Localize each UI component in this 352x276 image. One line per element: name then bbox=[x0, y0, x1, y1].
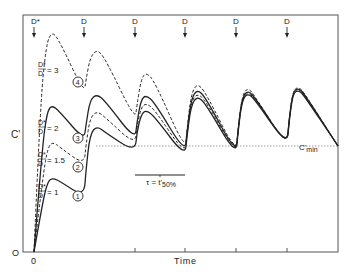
series-marker-number: 1 bbox=[76, 193, 80, 200]
dosing-chart: D*DDDDD D*D= 34D*D= 23D*D= 1.52D*D= 11 τ… bbox=[0, 0, 352, 276]
ratio-value: = 3 bbox=[47, 66, 59, 75]
dose-marker: D bbox=[81, 17, 87, 38]
y-origin-label: O bbox=[12, 248, 19, 258]
dose-arrow-icon bbox=[82, 33, 86, 38]
cmin-sub: min bbox=[306, 146, 317, 153]
tau-interval-annotation: τ = t'50% bbox=[135, 175, 185, 188]
dose-marker: D bbox=[284, 17, 290, 38]
chart-frame bbox=[23, 15, 338, 252]
plot-border bbox=[23, 15, 338, 252]
dose-arrow-icon bbox=[285, 33, 289, 38]
dose-marker: D bbox=[182, 17, 188, 38]
ratio-numerator: D* bbox=[38, 119, 46, 126]
ratio-denominator: D bbox=[38, 70, 43, 77]
tau-label: τ = t'50% bbox=[146, 178, 176, 188]
ratio-value: = 2 bbox=[47, 124, 59, 133]
dose-marker: D bbox=[132, 17, 138, 38]
ratio-denominator: D bbox=[38, 128, 43, 135]
x-axis-label: Time bbox=[174, 256, 197, 266]
dose-arrow-icon bbox=[234, 33, 238, 38]
series-label: D*D= 1.52 bbox=[38, 151, 83, 172]
ratio-denominator: D bbox=[38, 160, 43, 167]
dose-label: D* bbox=[31, 17, 40, 26]
tau-main: τ = t' bbox=[146, 178, 163, 187]
series-marker-number: 3 bbox=[76, 135, 80, 142]
x-origin-label: 0 bbox=[31, 256, 36, 266]
dose-marker: D* bbox=[31, 17, 40, 38]
ratio-numerator: D* bbox=[38, 61, 46, 68]
dose-arrow-icon bbox=[183, 33, 187, 38]
dose-markers: D*DDDDD bbox=[31, 17, 290, 38]
ratio-value: = 1 bbox=[47, 188, 59, 197]
ratio-value: = 1.5 bbox=[47, 156, 66, 165]
dose-label: D bbox=[132, 17, 138, 26]
ratio-numerator: D* bbox=[38, 151, 46, 158]
dose-label: D bbox=[284, 17, 290, 26]
series-marker-number: 4 bbox=[76, 79, 80, 86]
series-label: D*D= 34 bbox=[38, 61, 83, 87]
y-axis-label: C' bbox=[11, 129, 20, 140]
series-marker-number: 2 bbox=[76, 164, 80, 171]
ratio-numerator: D* bbox=[38, 183, 46, 190]
cmin-label: C'min bbox=[299, 143, 318, 153]
tau-sub: 50% bbox=[162, 181, 176, 188]
dose-marker: D bbox=[233, 17, 239, 38]
dose-label: D bbox=[81, 17, 87, 26]
dose-arrow-icon bbox=[133, 33, 137, 38]
dose-label: D bbox=[182, 17, 188, 26]
dose-arrow-icon bbox=[32, 33, 36, 38]
ratio-denominator: D bbox=[38, 192, 43, 199]
dose-label: D bbox=[233, 17, 239, 26]
